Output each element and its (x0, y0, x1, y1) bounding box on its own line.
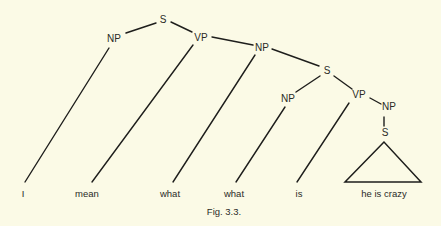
edge-s-vp (171, 22, 192, 32)
node-vp-main: VP (194, 32, 208, 43)
node-vp-embedded: VP (352, 89, 366, 100)
word-mean: mean (75, 188, 99, 199)
node-np-object: NP (255, 42, 269, 53)
node-np-subject: NP (107, 33, 121, 44)
edge-np-i (25, 48, 109, 182)
edge-np2-what (236, 107, 285, 182)
edge-s-np (126, 23, 156, 33)
word-he-is-crazy: he is crazy (361, 188, 407, 199)
edge-vp-mean (92, 45, 193, 182)
word-i: I (22, 188, 25, 199)
node-s-complement: S (382, 127, 389, 138)
edge-np-what (173, 55, 255, 182)
edge-s-vp2 (334, 76, 352, 89)
edge-s-np2 (296, 76, 320, 92)
word-what-2: what (223, 188, 244, 199)
syntax-tree-diagram: S NP VP NP S NP VP NP S I mean what what… (0, 0, 441, 226)
node-np-embedded: NP (281, 93, 295, 104)
edge-vp-np (212, 37, 253, 45)
triangle-abbreviation (345, 142, 421, 182)
node-s-embedded: S (324, 65, 331, 76)
node-np-complement: NP (382, 101, 396, 112)
edge-np-s (272, 49, 319, 66)
figure-caption: Fig. 3.3. (207, 206, 241, 217)
edge-vp2-is (297, 103, 349, 182)
node-s-root: S (160, 14, 167, 25)
word-is: is (296, 188, 303, 199)
edge-vp2-np (370, 98, 381, 104)
word-what-1: what (159, 188, 180, 199)
